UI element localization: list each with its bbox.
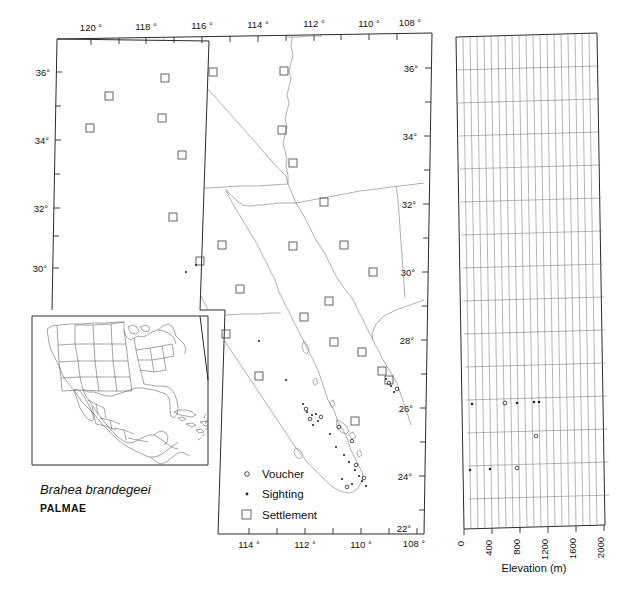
sighting-marker bbox=[335, 446, 337, 448]
sighting-marker bbox=[317, 420, 319, 422]
lon-label-bottom-2: 110 ° bbox=[350, 539, 372, 550]
lat-label-right-0: 36° bbox=[404, 63, 419, 74]
elev-xtick-4: 1600 bbox=[567, 538, 578, 559]
elev-point-sighting bbox=[516, 402, 519, 405]
lat-label-right-4: 28° bbox=[400, 335, 415, 346]
sighting-marker bbox=[311, 414, 313, 416]
lon-label-top-1: 118 ° bbox=[135, 21, 157, 32]
lon-label-top-4: 112 ° bbox=[303, 18, 325, 29]
elev-xtick-1: 400 bbox=[483, 540, 494, 556]
elevation-axis-title: Elevation (m) bbox=[502, 562, 567, 574]
figure-canvas: 120 ° 118 ° 116 ° 114 ° 112 ° 110 ° 108 … bbox=[0, 0, 626, 606]
elev-point-sighting bbox=[533, 401, 536, 404]
lon-label-bottom-1: 112 ° bbox=[294, 539, 316, 550]
elev-point-sighting bbox=[469, 469, 472, 472]
sighting-marker bbox=[390, 385, 392, 387]
species-name: Brahea brandegeei bbox=[40, 482, 152, 497]
sighting-marker bbox=[343, 454, 345, 456]
species-family: PALMAE bbox=[40, 502, 87, 514]
elev-xtick-5: 2000 bbox=[595, 537, 606, 558]
lat-label-left-3: 30° bbox=[33, 263, 48, 274]
sighting-marker bbox=[185, 271, 187, 273]
inset-map-frame bbox=[32, 316, 208, 465]
legend-sighting-label: Sighting bbox=[262, 488, 304, 500]
elev-xtick-3: 1200 bbox=[539, 539, 550, 560]
lon-label-bottom-0: 114 ° bbox=[238, 539, 260, 550]
sighting-marker bbox=[315, 413, 317, 415]
lat-label-left-0: 36° bbox=[36, 67, 51, 78]
lon-label-top-5: 110 ° bbox=[358, 18, 380, 29]
lat-label-right-7: 22° bbox=[397, 523, 412, 534]
lon-label-top-0: 120 ° bbox=[80, 22, 102, 33]
sighting-marker bbox=[393, 391, 395, 393]
sighting-marker bbox=[354, 469, 356, 471]
lat-label-right-2: 32° bbox=[402, 199, 417, 210]
lon-label-top-6: 108 ° bbox=[399, 17, 421, 28]
sighting-marker bbox=[306, 411, 308, 413]
legend-voucher-label: Voucher bbox=[262, 468, 304, 480]
lat-label-right-6: 24° bbox=[398, 471, 413, 482]
lon-label-top-3: 114 ° bbox=[247, 19, 269, 30]
lat-label-left-2: 32° bbox=[34, 203, 49, 214]
sighting-marker bbox=[361, 480, 363, 482]
distribution-figure: 120 ° 118 ° 116 ° 114 ° 112 ° 110 ° 108 … bbox=[0, 0, 626, 606]
sighting-marker bbox=[365, 485, 367, 487]
lat-label-right-1: 34° bbox=[403, 131, 418, 142]
sighting-marker bbox=[385, 378, 387, 380]
elev-xtick-2: 800 bbox=[511, 539, 522, 555]
sighting-marker bbox=[358, 475, 360, 477]
sighting-marker bbox=[341, 478, 343, 480]
lon-label-bottom-3: 108 ° bbox=[403, 538, 425, 549]
elev-point-sighting bbox=[471, 403, 474, 406]
sighting-marker bbox=[285, 379, 287, 381]
sighting-marker bbox=[302, 403, 304, 405]
sighting-marker bbox=[258, 340, 260, 342]
lat-label-right-5: 26° bbox=[399, 403, 414, 414]
elev-point-sighting bbox=[489, 468, 492, 471]
elev-point-sighting bbox=[538, 401, 541, 404]
lon-label-top-2: 116 ° bbox=[191, 20, 213, 31]
sighting-marker bbox=[329, 433, 331, 435]
elev-xtick-0: 0 bbox=[455, 541, 466, 546]
legend-settlement-label: Settlement bbox=[262, 509, 318, 521]
legend-sighting-icon bbox=[246, 493, 249, 496]
sighting-marker bbox=[348, 461, 350, 463]
sighting-marker bbox=[312, 424, 314, 426]
sighting-marker bbox=[195, 264, 197, 266]
inset-map-panel bbox=[32, 316, 210, 465]
lat-label-left-1: 34° bbox=[35, 135, 50, 146]
sighting-marker bbox=[351, 483, 353, 485]
elevation-panel: 0 400 800 1200 1600 2000 Elevation (m) bbox=[455, 33, 609, 574]
